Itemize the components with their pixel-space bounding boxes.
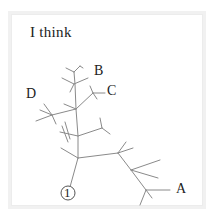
tree-branch: [64, 104, 76, 109]
leaf-label-b: B: [94, 63, 103, 79]
tree-branch: [66, 68, 74, 72]
tree-branch: [61, 148, 78, 158]
tree-branch: [52, 109, 76, 115]
tree-branch: [74, 72, 78, 158]
tree-branch: [118, 153, 131, 170]
tree-branch: [70, 158, 78, 187]
tree-branch: [70, 84, 74, 92]
leaf-label-a: A: [176, 181, 186, 197]
tree-branch: [74, 78, 88, 84]
tree-branch: [140, 190, 146, 205]
tree-branch: [74, 66, 80, 72]
tree-branch: [78, 153, 118, 158]
tree-branch: [80, 66, 83, 68]
tree-branch: [131, 170, 146, 190]
tree-branch: [78, 128, 102, 136]
tree-branch: [131, 160, 160, 170]
tree-branch: [36, 115, 52, 121]
tree-branch: [62, 78, 74, 84]
tree-branch: [100, 118, 102, 128]
tree-branch: [131, 170, 158, 178]
tree-branch: [90, 86, 93, 93]
root-label: 1: [64, 185, 71, 201]
leaf-label-c: C: [107, 83, 116, 99]
leaf-label-d: D: [26, 86, 36, 102]
tree-branch: [93, 93, 97, 99]
tree-branch: [52, 115, 56, 124]
tree-branch: [76, 93, 93, 109]
tree-branch: [146, 190, 152, 198]
tree-branch: [102, 128, 110, 134]
